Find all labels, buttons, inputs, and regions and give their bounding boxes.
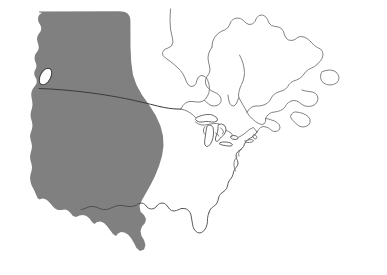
map-figure (0, 0, 387, 275)
north-america-map (0, 0, 387, 275)
